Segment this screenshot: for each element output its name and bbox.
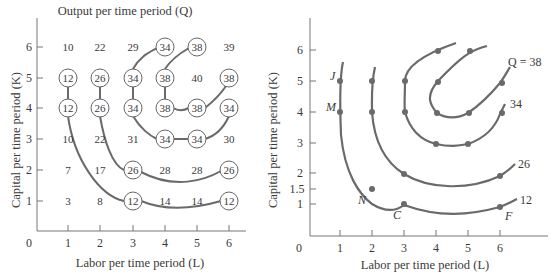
point-label-j: J bbox=[330, 69, 336, 83]
cell-circled: 34 bbox=[224, 102, 236, 114]
cell: 22 bbox=[95, 41, 106, 53]
cell-circled: 12 bbox=[128, 195, 139, 207]
curve-label-38: Q = 38 bbox=[508, 55, 541, 69]
svg-text:2: 2 bbox=[297, 166, 303, 180]
cell-circled: 38 bbox=[192, 41, 204, 53]
point-label-f: F bbox=[504, 209, 513, 223]
cell: 31 bbox=[128, 133, 139, 145]
cell: 39 bbox=[224, 41, 236, 53]
svg-text:0: 0 bbox=[26, 236, 32, 250]
cell-circled: 26 bbox=[95, 102, 107, 114]
isoquant-12 bbox=[340, 62, 517, 214]
svg-text:4: 4 bbox=[297, 105, 303, 119]
svg-text:0: 0 bbox=[296, 241, 302, 255]
right-data-points bbox=[337, 48, 505, 210]
cell-circled: 34 bbox=[160, 41, 172, 53]
cell-circled: 26 bbox=[95, 72, 107, 84]
cell-circled: 12 bbox=[224, 195, 235, 207]
svg-text:6: 6 bbox=[497, 241, 503, 255]
cell-circled: 34 bbox=[192, 133, 204, 145]
svg-text:1: 1 bbox=[26, 194, 32, 208]
cell: 29 bbox=[128, 41, 140, 53]
svg-text:5: 5 bbox=[465, 241, 471, 255]
cell: 8 bbox=[97, 195, 103, 207]
svg-text:4: 4 bbox=[433, 241, 439, 255]
curve-label-12: 12 bbox=[520, 193, 532, 207]
svg-text:1.5: 1.5 bbox=[290, 182, 305, 196]
svg-text:6: 6 bbox=[297, 43, 303, 57]
cell-circled: 34 bbox=[160, 133, 172, 145]
left-output-table: 10 22 29 34 38 39 12 26 34 38 40 38 12 2… bbox=[59, 38, 238, 210]
right-isoquant-chart: 6 5 4 3 2 1.5 1 0 1 2 3 4 5 6 Labor per … bbox=[266, 18, 548, 272]
figure: Output per time period (Q) 6 5 4 3 2 1 0… bbox=[0, 0, 552, 277]
cell-circled: 26 bbox=[128, 164, 140, 176]
svg-text:3: 3 bbox=[401, 241, 407, 255]
cell: 7 bbox=[65, 164, 71, 176]
left-isoquant-lines bbox=[68, 48, 229, 208]
cell-circled: 34 bbox=[128, 72, 140, 84]
svg-text:3: 3 bbox=[130, 236, 136, 250]
cell: 17 bbox=[95, 164, 107, 176]
right-isoquant-curves bbox=[340, 43, 517, 214]
right-point-labels: J M N C F bbox=[325, 69, 513, 223]
point-label-c: C bbox=[393, 208, 402, 222]
cell: 14 bbox=[160, 195, 172, 207]
right-x-tick-labels: 0 1 2 3 4 5 6 bbox=[296, 241, 503, 255]
cell: 22 bbox=[95, 133, 106, 145]
svg-text:5: 5 bbox=[194, 236, 200, 250]
cell: 28 bbox=[160, 164, 172, 176]
svg-text:6: 6 bbox=[226, 236, 232, 250]
cell: 40 bbox=[192, 72, 204, 84]
curve-label-34: 34 bbox=[510, 97, 522, 111]
svg-text:4: 4 bbox=[26, 101, 32, 115]
cell-circled: 38 bbox=[224, 72, 236, 84]
svg-text:6: 6 bbox=[26, 40, 32, 54]
cell-circled: 34 bbox=[128, 102, 140, 114]
left-x-label: Labor per time period (L) bbox=[76, 256, 204, 270]
svg-text:1: 1 bbox=[65, 236, 71, 250]
cell: 10 bbox=[63, 41, 75, 53]
svg-text:2: 2 bbox=[97, 236, 103, 250]
left-table-chart: Output per time period (Q) 6 5 4 3 2 1 0… bbox=[9, 4, 246, 270]
cell-circled: 26 bbox=[224, 164, 236, 176]
svg-text:2: 2 bbox=[369, 241, 375, 255]
left-x-tick-labels: 0 1 2 3 4 5 6 bbox=[26, 236, 232, 250]
point-label-m: M bbox=[325, 100, 337, 114]
svg-text:1: 1 bbox=[337, 241, 343, 255]
cell: 28 bbox=[192, 164, 204, 176]
svg-text:4: 4 bbox=[162, 236, 168, 250]
cell: 10 bbox=[63, 133, 75, 145]
svg-text:3: 3 bbox=[297, 136, 303, 150]
curve-label-26: 26 bbox=[518, 157, 530, 171]
right-x-label: Labor per time period (L) bbox=[361, 258, 489, 272]
cell-circled: 12 bbox=[63, 102, 74, 114]
cell-circled: 38 bbox=[160, 72, 172, 84]
cell-circled: 12 bbox=[63, 72, 74, 84]
svg-text:5: 5 bbox=[297, 74, 303, 88]
left-title: Output per time period (Q) bbox=[58, 4, 193, 18]
isoquant-38 bbox=[430, 46, 510, 118]
right-curve-labels: Q = 38 34 26 12 bbox=[508, 55, 541, 207]
point-label-n: N bbox=[357, 193, 367, 207]
svg-text:2: 2 bbox=[26, 163, 32, 177]
left-y-label: Capital per time period (K) bbox=[9, 72, 23, 208]
svg-text:5: 5 bbox=[26, 71, 32, 85]
cell: 3 bbox=[65, 195, 71, 207]
cell-circled: 38 bbox=[160, 102, 172, 114]
left-y-tick-labels: 6 5 4 3 2 1 bbox=[26, 40, 32, 208]
svg-text:1: 1 bbox=[297, 197, 303, 211]
cell-circled: 38 bbox=[192, 102, 204, 114]
svg-text:3: 3 bbox=[26, 132, 32, 146]
right-y-label: Capital per time period (K) bbox=[266, 72, 280, 208]
cell: 30 bbox=[224, 133, 236, 145]
right-y-tick-labels: 6 5 4 3 2 1.5 1 bbox=[290, 43, 305, 211]
cell: 14 bbox=[192, 195, 204, 207]
